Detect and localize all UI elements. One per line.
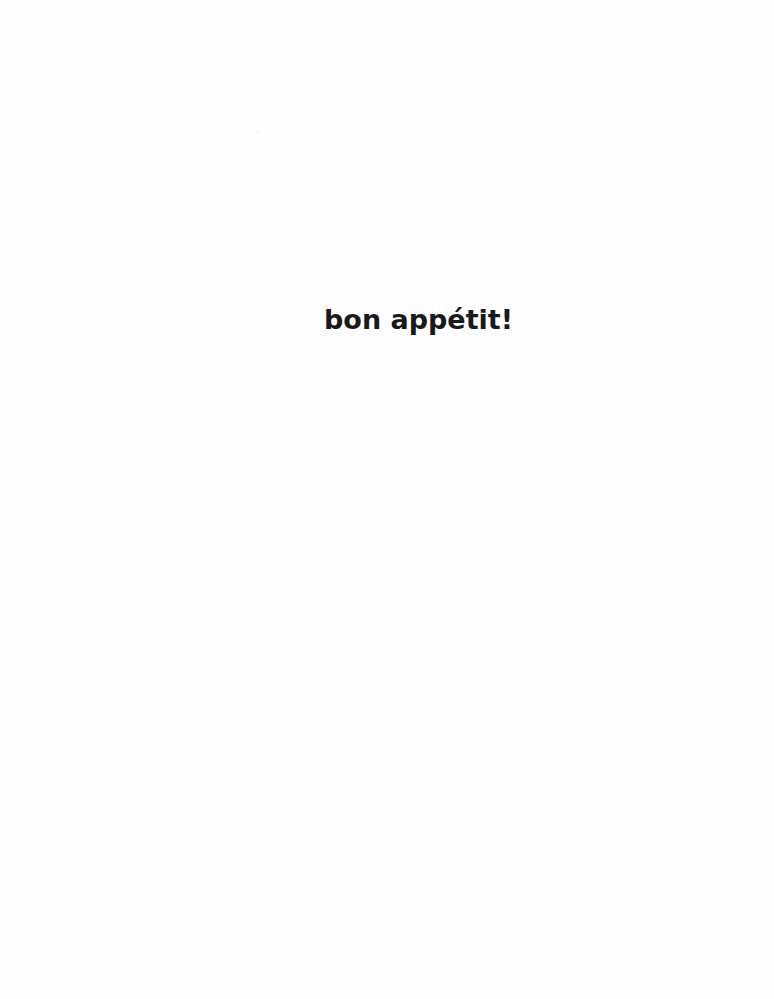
scan-speck [257,131,258,132]
document-page: bon appétit! [0,0,774,999]
page-headline: bon appétit! [324,300,513,340]
scan-speck [398,924,399,925]
